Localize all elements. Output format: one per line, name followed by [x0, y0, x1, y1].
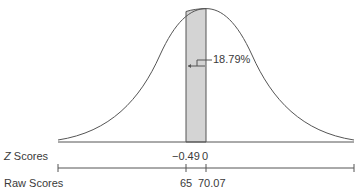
z-letter: Z: [4, 150, 11, 162]
z-tick-neg049: −0.49: [172, 150, 200, 162]
z-scores-text: Scores: [11, 150, 48, 162]
normal-curve-chart: [0, 0, 359, 194]
shaded-area: [186, 9, 206, 142]
raw-scores-label: Raw Scores: [4, 177, 63, 189]
z-scores-label: Z Scores: [4, 150, 48, 162]
raw-tick-7007-label: 70.07: [198, 177, 226, 189]
z-tick-0: 0: [202, 150, 208, 162]
raw-tick-65-label: 65: [180, 177, 192, 189]
area-percent-label: 18.79%: [213, 53, 250, 65]
